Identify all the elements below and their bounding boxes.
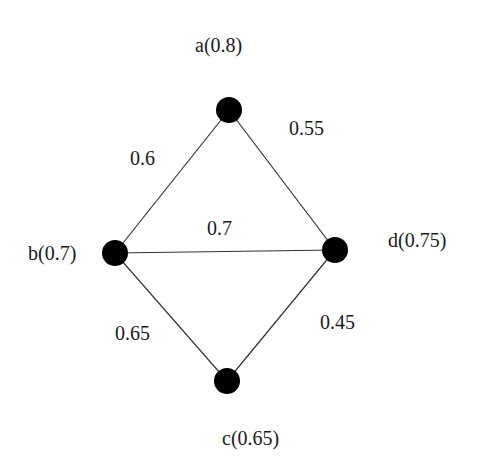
node-d bbox=[322, 237, 348, 263]
edge-weight-d-c: 0.45 bbox=[320, 312, 355, 332]
edge-b-d bbox=[115, 250, 335, 253]
node-b bbox=[102, 240, 128, 266]
node-label-a: a(0.8) bbox=[195, 35, 242, 55]
edge-b-c bbox=[115, 253, 227, 381]
node-label-c: c(0.65) bbox=[222, 428, 279, 448]
node-a bbox=[216, 97, 242, 123]
node-label-b: b(0.7) bbox=[28, 243, 76, 263]
edge-weight-a-b: 0.6 bbox=[130, 148, 155, 168]
node-c bbox=[214, 368, 240, 394]
edge-d-c bbox=[227, 250, 335, 381]
edge-weight-a-d: 0.55 bbox=[289, 118, 324, 138]
edge-weight-b-c: 0.65 bbox=[115, 323, 150, 343]
edge-weight-b-d: 0.7 bbox=[207, 218, 232, 238]
node-label-d: d(0.75) bbox=[388, 230, 446, 250]
